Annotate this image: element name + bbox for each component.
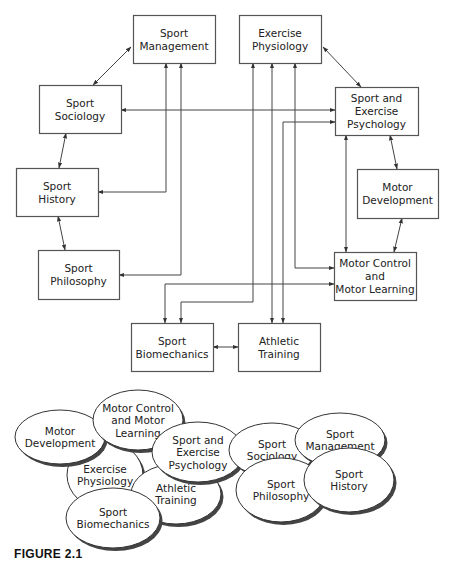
box-label: Sport [66,97,94,109]
box-label: Sport [64,262,92,274]
connector-biomech-motorcontrol [165,284,334,323]
ellipse-label: Motor Control [102,402,174,414]
ellipse-label: Sport [99,506,127,518]
ellipse-label: Sport [267,478,295,490]
box-label: Training [257,348,299,360]
ellipse-sport-biomechanics: SportBiomechanics [66,488,163,551]
box-label: Sport [43,180,71,192]
connector-management-sociology [93,47,131,85]
box-label: and [365,270,385,282]
ellipse-label: Sport and [172,434,223,446]
ellipse-label: Motor [45,425,76,437]
ellipse-label: Psychology [169,459,228,471]
box-label: Biomechanics [136,348,209,360]
box-label: Development [362,194,433,206]
box-sport-sociology: SportSociology [40,86,122,134]
box-label: Physiology [252,40,308,52]
box-label: Athletic [259,335,299,347]
box-athletic-training: AthleticTraining [239,324,321,372]
ellipse-label: Training [154,494,196,506]
box-motor-development: MotorDevelopment [358,170,439,219]
connector-history-philosophy [58,216,65,250]
box-label: History [38,193,75,205]
box-sport-philosophy: SportPhilosophy [39,251,120,300]
discipline-boxes: SportManagementExercisePhysiologySportSo… [17,16,439,372]
box-exercise-physiology: ExercisePhysiology [240,16,322,64]
box-label: Exercise [258,27,302,39]
ellipse-label: Learning [115,427,161,439]
connector-physiology-psychology-bus [283,122,335,323]
box-label: Motor Learning [335,283,414,295]
connector-psychology-motordev [390,135,397,169]
connector-philosophy-management [119,63,181,275]
connector-physiology-psychology [323,47,361,87]
box-label: Sport [160,27,188,39]
discipline-ellipses: ExercisePhysiologyMotorDevelopmentMotor … [15,390,397,551]
box-label: Sport and [351,92,402,104]
box-label: Sport [158,335,186,347]
ellipse-label: Sport [335,468,363,480]
ellipse-label: Development [25,437,96,449]
box-label: Motor Control [339,257,411,269]
box-label: Motor [382,181,413,193]
ellipse-label: Sport [258,438,286,450]
box-label: Management [139,40,208,52]
box-label: Psychology [347,118,406,130]
box-sport-management: SportManagement [134,16,216,64]
box-motor-control-learning: Motor ControlandMotor Learning [335,253,417,301]
box-sport-biomechanics: SportBiomechanics [132,324,214,372]
ellipse-label: Biomechanics [77,518,150,530]
box-label: Philosophy [50,275,107,287]
ellipse-label: Exercise [83,463,127,475]
box-sport-history: SportHistory [17,169,99,217]
figure-caption: FIGURE 2.1 [14,547,82,561]
box-label: Exercise [355,105,399,117]
box-sport-exercise-psychology: Sport andExercisePsychology [336,88,419,136]
connector-sociology-history [59,133,66,168]
ellipse-label: and Motor [111,414,165,426]
ellipse-label: Exercise [176,446,220,458]
connector-motordev-motorcontrol [394,218,402,252]
ellipse-label: History [330,480,367,492]
ellipse-label: Physiology [77,475,133,487]
box-label: Sociology [55,110,105,122]
ellipse-label: Philosophy [253,490,310,502]
connector-physiology-motorcontrol [295,63,334,268]
ellipse-label: Sport [326,428,354,440]
